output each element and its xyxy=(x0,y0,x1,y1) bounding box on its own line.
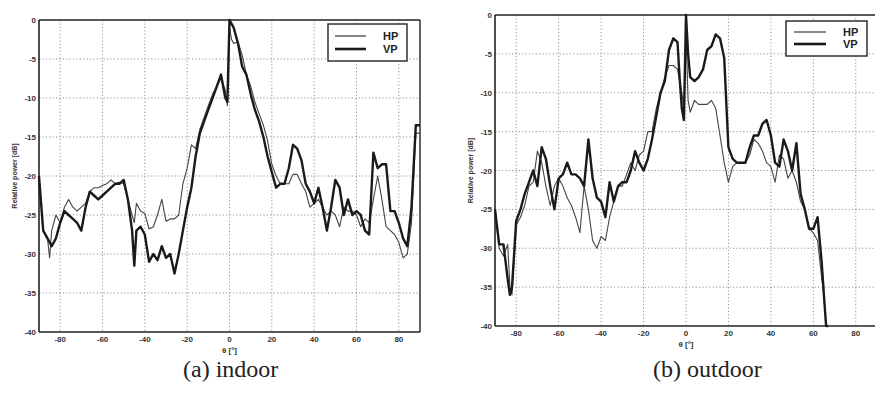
x-tick-label: -40 xyxy=(139,335,151,344)
y-tick-label: 0 xyxy=(488,11,493,20)
y-axis-label: Relative power [dB] xyxy=(11,143,19,208)
x-tick-label: 0 xyxy=(684,329,689,338)
x-axis-label: θ [°] xyxy=(222,346,237,355)
chart-outdoor: -80-60-40-200204060800-5-10-15-20-25-30-… xyxy=(440,0,875,402)
x-tick-label: 40 xyxy=(310,335,319,344)
panel-indoor: -80-60-40-200204060800-5-10-15-20-25-30-… xyxy=(0,0,440,402)
chart-indoor: -80-60-40-200204060800-5-10-15-20-25-30-… xyxy=(0,0,440,402)
y-tick-label: -15 xyxy=(24,133,36,142)
x-tick-label: -60 xyxy=(97,335,109,344)
y-tick-label: -10 xyxy=(480,89,492,98)
legend: HPVP xyxy=(786,21,867,56)
y-tick-label: -40 xyxy=(24,328,36,337)
x-tick-label: -60 xyxy=(553,329,565,338)
legend: HPVP xyxy=(328,24,407,61)
legend-vp-label: VP xyxy=(843,38,858,50)
plot-area: -80-60-40-200204060800-5-10-15-20-25-30-… xyxy=(467,11,875,349)
plot-area: -80-60-40-200204060800-5-10-15-20-25-30-… xyxy=(11,16,420,355)
panel-outdoor: -80-60-40-200204060800-5-10-15-20-25-30-… xyxy=(440,0,875,402)
y-axis-label: Relative power [dB] xyxy=(467,138,475,203)
x-tick-label: 20 xyxy=(267,335,276,344)
y-tick-label: 0 xyxy=(32,16,37,25)
x-tick-label: 80 xyxy=(394,335,403,344)
y-tick-label: -20 xyxy=(480,167,492,176)
y-tick-label: -10 xyxy=(24,94,36,103)
x-tick-label: 60 xyxy=(809,329,818,338)
y-tick-label: -30 xyxy=(24,250,36,259)
series-hp xyxy=(495,31,828,326)
legend-vp-label: VP xyxy=(383,43,398,55)
caption-indoor: (a) indoor xyxy=(183,356,278,383)
x-tick-label: -80 xyxy=(54,335,66,344)
y-tick-label: -35 xyxy=(24,289,36,298)
x-tick-label: 0 xyxy=(227,335,232,344)
x-tick-label: -80 xyxy=(510,329,522,338)
y-tick-label: -35 xyxy=(480,283,492,292)
y-tick-label: -5 xyxy=(29,55,37,64)
legend-hp-label: HP xyxy=(843,26,858,38)
y-tick-label: -30 xyxy=(480,244,492,253)
x-tick-label: -20 xyxy=(181,335,193,344)
y-tick-label: -25 xyxy=(480,205,492,214)
x-tick-label: 80 xyxy=(851,329,860,338)
y-tick-label: -15 xyxy=(480,128,492,137)
y-tick-label: -20 xyxy=(24,172,36,181)
x-tick-label: 60 xyxy=(352,335,361,344)
y-tick-label: -40 xyxy=(480,322,492,331)
legend-hp-label: HP xyxy=(383,30,398,42)
x-axis-label: θ [°] xyxy=(678,340,693,349)
x-tick-label: -20 xyxy=(638,329,650,338)
x-tick-label: -40 xyxy=(595,329,607,338)
x-tick-label: 20 xyxy=(724,329,733,338)
x-tick-label: 40 xyxy=(766,329,775,338)
y-tick-label: -5 xyxy=(485,50,493,59)
y-tick-label: -25 xyxy=(24,211,36,220)
caption-outdoor: (b) outdoor xyxy=(653,356,762,383)
